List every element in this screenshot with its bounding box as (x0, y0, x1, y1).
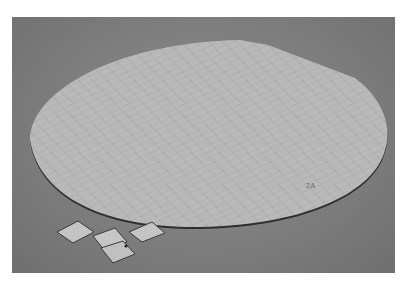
chip (57, 221, 94, 243)
chip-hole (124, 244, 127, 247)
wafer-illustration (0, 0, 408, 287)
wafer-marking: 2A (306, 182, 316, 189)
wafer-surface (30, 40, 387, 227)
chip-group (57, 221, 165, 263)
